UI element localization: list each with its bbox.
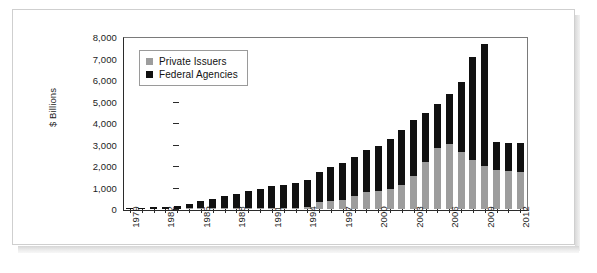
y-axis-tick-0: 0 — [112, 204, 117, 215]
bar-segment-federal-agencies-1996 — [327, 167, 334, 201]
bar-slot-2007 — [455, 37, 467, 209]
bar-slot-1995 — [313, 37, 325, 209]
stacked-bar-1990 — [257, 189, 264, 209]
legend-swatch-black-square-icon — [146, 71, 153, 78]
x-axis-label-slot-1979: 1979 — [124, 215, 136, 261]
x-axis-label-slot-1981 — [148, 215, 160, 261]
x-axis-label-slot-1992 — [278, 215, 290, 261]
x-axis-tick-slot-1999 — [361, 209, 373, 214]
x-axis-label-slot-1985: 1985 — [195, 215, 207, 261]
bar-slot-2008 — [467, 37, 479, 209]
x-axis-tick-mark — [355, 209, 356, 213]
stacked-bar-2008 — [469, 57, 476, 209]
bar-segment-federal-agencies-2004 — [422, 113, 429, 162]
bar-segment-federal-agencies-1999 — [363, 150, 370, 192]
x-axis-tick-mark — [142, 209, 143, 213]
x-axis-label-slot-2004 — [420, 215, 432, 261]
bar-segment-federal-agencies-2010 — [493, 142, 500, 171]
bar-segment-private-issuers-2003 — [410, 176, 417, 209]
bar-segment-federal-agencies-1998 — [351, 157, 358, 195]
x-axis-tick-mark — [508, 209, 509, 213]
y-axis-tick-3000: 3,000 — [93, 139, 117, 150]
bar-segment-federal-agencies-1995 — [316, 172, 323, 202]
bar-segment-private-issuers-2005 — [434, 148, 441, 209]
bar-segment-private-issuers-2009 — [481, 166, 488, 209]
x-axis-tick-labels: 1979198219851988199119941997200020032006… — [124, 215, 526, 261]
x-axis-tick-mark — [284, 209, 285, 213]
bar-segment-private-issuers-2010 — [493, 170, 500, 209]
bar-slot-1990 — [254, 37, 266, 209]
x-axis-label-slot-2002 — [396, 215, 408, 261]
bar-slot-1999 — [361, 37, 373, 209]
x-axis-label-slot-1980 — [136, 215, 148, 261]
x-axis-label-slot-2012: 2012 — [514, 215, 526, 261]
bar-slot-2010 — [491, 37, 503, 209]
bar-slot-2006 — [443, 37, 455, 209]
figure-shadow-right — [575, 15, 580, 251]
x-axis-tick-mark — [225, 209, 226, 213]
x-axis-tick-slot-2011 — [503, 209, 515, 214]
bar-segment-federal-agencies-2000 — [375, 146, 382, 191]
stacked-bar-2004 — [422, 113, 429, 209]
bar-segment-federal-agencies-2003 — [410, 120, 417, 176]
stacked-bar-1987 — [221, 196, 228, 209]
bar-segment-private-issuers-2006 — [446, 144, 453, 209]
bar-segment-federal-agencies-2011 — [505, 143, 512, 171]
y-axis-tick-1000: 1,000 — [93, 182, 117, 193]
bar-segment-private-issuers-2008 — [469, 160, 476, 209]
bar-segment-federal-agencies-1991 — [268, 186, 275, 208]
x-axis-label-slot-2006: 2006 — [443, 215, 455, 261]
stacked-bar-2005 — [434, 104, 441, 209]
x-axis-tick-mark — [426, 209, 427, 213]
stacked-bar-1994 — [304, 180, 311, 209]
stacked-bar-2007 — [458, 82, 465, 209]
x-axis-tick-mark — [461, 209, 462, 213]
chart-legend: Private Issuers Federal Agencies — [139, 50, 248, 86]
bar-slot-1991 — [266, 37, 278, 209]
legend-swatch-gray-square-icon — [146, 58, 153, 65]
bar-slot-2009 — [479, 37, 491, 209]
x-axis-tick-mark — [213, 209, 214, 213]
bar-segment-federal-agencies-2005 — [434, 104, 441, 148]
y-axis-tick-2000: 2,000 — [93, 161, 117, 172]
x-axis-tick-mark — [248, 209, 249, 213]
bar-segment-federal-agencies-2006 — [446, 94, 453, 144]
x-axis-tick-mark — [497, 209, 498, 213]
x-axis-tick-mark — [189, 209, 190, 213]
bar-slot-1979 — [124, 37, 136, 209]
stacked-bar-2011 — [505, 143, 512, 209]
y-axis-tick-labels: 8,0007,0006,0005,0004,0003,0002,0001,000… — [69, 10, 117, 273]
x-axis-label-slot-2005 — [432, 215, 444, 261]
bar-slot-1996 — [325, 37, 337, 209]
x-axis-label-slot-1994: 1994 — [301, 215, 313, 261]
bar-slot-2004 — [420, 37, 432, 209]
stacked-bar-2006 — [446, 94, 453, 209]
legend-label-federal-agencies: Federal Agencies — [159, 69, 238, 80]
bar-segment-federal-agencies-2007 — [458, 82, 465, 152]
x-axis-label-slot-1995 — [313, 215, 325, 261]
x-axis-label-slot-1982: 1982 — [159, 215, 171, 261]
x-axis-label-slot-2007 — [455, 215, 467, 261]
stacked-bar-2003 — [410, 120, 417, 209]
x-axis-label-slot-2000: 2000 — [372, 215, 384, 261]
x-axis-tick-slot-1993 — [290, 209, 302, 214]
x-axis-label-slot-1991: 1991 — [266, 215, 278, 261]
bar-slot-1998 — [349, 37, 361, 209]
x-axis-tick-slot-1984 — [183, 209, 195, 214]
y-axis-title: $ Billions — [47, 63, 58, 153]
bar-segment-private-issuers-2011 — [505, 171, 512, 209]
bar-segment-private-issuers-2012 — [517, 172, 524, 209]
stacked-bar-1997 — [339, 163, 346, 209]
x-axis-label-slot-1998 — [349, 215, 361, 261]
bar-segment-federal-agencies-1994 — [304, 180, 311, 207]
bar-slot-2012 — [514, 37, 526, 209]
y-axis-tick-4000: 4,000 — [93, 118, 117, 129]
bar-segment-private-issuers-2004 — [422, 162, 429, 210]
x-axis-tick-mark — [296, 209, 297, 213]
x-axis-tick-slot-1990 — [254, 209, 266, 214]
bar-slot-2000 — [372, 37, 384, 209]
stacked-bar-1999 — [363, 150, 370, 209]
x-axis-label-slot-2010 — [491, 215, 503, 261]
stacked-bar-1995 — [316, 172, 323, 209]
y-axis-tick-7000: 7,000 — [93, 53, 117, 64]
